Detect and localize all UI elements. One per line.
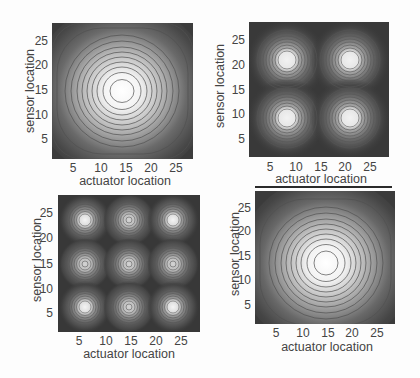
x-axis-label: actuator location <box>70 174 180 188</box>
x-tick-label: 15 <box>121 335 141 347</box>
x-tick-label: 10 <box>91 162 111 174</box>
contour-plot-area <box>52 23 193 159</box>
y-axis-label: sensor location <box>23 49 37 133</box>
y-tick-label: 25 <box>28 35 48 47</box>
x-tick-label: 5 <box>63 162 83 174</box>
x-tick-label: 20 <box>141 162 161 174</box>
x-tick-label: 5 <box>69 335 89 347</box>
y-tick-label: 5 <box>33 307 53 319</box>
y-tick-label: 15 <box>225 84 245 96</box>
x-axis-label: actuator location <box>272 340 382 354</box>
x-axis-label: actuator location <box>266 172 376 186</box>
y-tick-label: 20 <box>225 59 245 71</box>
y-tick-label: 25 <box>225 34 245 46</box>
contour-plot-area <box>255 191 395 324</box>
x-tick-label: 25 <box>171 335 191 347</box>
y-tick-label: 5 <box>225 133 245 145</box>
contour-plot-area <box>58 195 200 332</box>
y-axis-label: sensor location <box>30 218 44 302</box>
x-tick-label: 15 <box>116 162 136 174</box>
x-tick-label: 20 <box>146 335 166 347</box>
x-tick-label: 25 <box>166 162 186 174</box>
contour-plot-area <box>249 22 389 157</box>
y-tick-label: 5 <box>28 133 48 145</box>
x-tick-label: 10 <box>96 335 116 347</box>
y-tick-label: 10 <box>225 108 245 120</box>
contour-graphic <box>52 23 193 159</box>
y-tick-label: 5 <box>231 299 251 311</box>
x-tick-label: 15 <box>318 327 338 339</box>
x-tick-label: 10 <box>293 327 313 339</box>
contour-graphic <box>255 191 395 324</box>
x-tick-label: 5 <box>266 327 286 339</box>
x-tick-label: 25 <box>367 327 387 339</box>
contour-graphic <box>249 22 389 157</box>
x-axis-label: actuator location <box>74 347 184 361</box>
y-axis-label: sensor location <box>213 44 227 128</box>
x-tick-label: 20 <box>342 327 362 339</box>
divider-line <box>255 186 392 188</box>
y-axis-label: sensor location <box>228 212 242 296</box>
contour-graphic <box>58 195 200 332</box>
